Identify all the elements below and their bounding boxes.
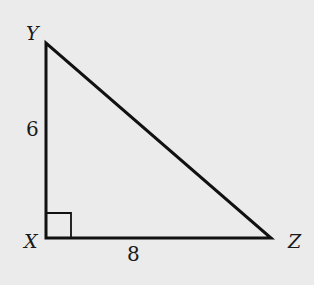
vertex-label-x: X	[24, 232, 38, 251]
triangle-diagram: Y X Z 6 8	[0, 0, 314, 285]
triangle-figure	[0, 0, 314, 285]
triangle-xyz	[46, 43, 271, 238]
vertex-label-y: Y	[26, 24, 39, 43]
side-label-xy: 6	[26, 119, 39, 139]
vertex-label-z: Z	[288, 232, 301, 251]
side-label-xz: 8	[127, 244, 140, 264]
right-angle-marker	[46, 213, 71, 238]
